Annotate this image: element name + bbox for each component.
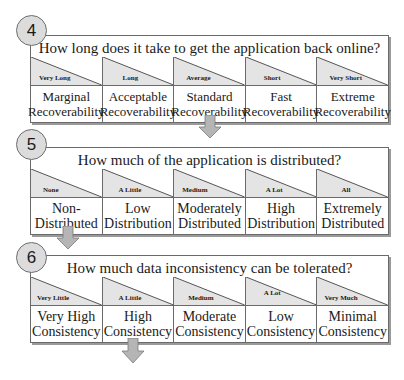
option-column[interactable]: MediumModerate Consistency	[174, 277, 246, 342]
step-number-badge: 4	[16, 15, 47, 46]
level-label: Very Long	[31, 74, 102, 82]
level-label: All	[317, 186, 388, 194]
option-scale: Very LongMarginal Recoverability LongAcc…	[31, 57, 388, 122]
level-label: A Lot	[246, 186, 317, 194]
option-label: Acceptable Recoverability	[103, 86, 174, 122]
triangle-header: A Little	[103, 277, 174, 306]
step-number-badge: 5	[16, 129, 47, 160]
option-column[interactable]: Very LittleVery High Consistency	[31, 277, 103, 342]
question-text: How much data inconsistency can be toler…	[31, 260, 388, 277]
option-label: Low Distribution	[103, 198, 174, 234]
option-label: High Consistency	[103, 306, 174, 342]
triangle-header: A Little	[103, 169, 174, 198]
level-label: Average	[174, 74, 245, 82]
option-column[interactable]: Very MuchMinimal Consistency	[317, 277, 388, 342]
option-column[interactable]: A LotHigh Distribution	[246, 169, 318, 234]
option-column[interactable]: A LittleLow Distribution	[103, 169, 175, 234]
option-scale: Very LittleVery High Consistency A Littl…	[31, 277, 388, 342]
option-column[interactable]: A LittleHigh Consistency	[103, 277, 175, 342]
option-scale: NoneNon-Distributed A LittleLow Distribu…	[31, 169, 388, 234]
option-column[interactable]: MediumModerately Distributed	[174, 169, 246, 234]
triangle-header: Very Much	[317, 277, 388, 306]
triangle-header: A Lot	[246, 169, 317, 198]
triangle-header: Very Long	[31, 57, 102, 86]
triangle-header: Very Short	[317, 57, 388, 86]
level-label: Long	[103, 74, 174, 82]
question-text: How much of the application is distribut…	[31, 152, 388, 169]
triangle-header: Average	[174, 57, 245, 86]
option-column[interactable]: AllExtremely Distributed	[317, 169, 388, 234]
triangle-header: All	[317, 169, 388, 198]
level-label: Very Little	[31, 294, 102, 302]
triangle-header: Very Little	[31, 277, 102, 306]
option-label: Fast Recoverability	[246, 86, 317, 122]
option-label: Minimal Consistency	[317, 306, 388, 342]
level-label: A Lot	[246, 289, 317, 297]
question-panel-distribution: How much of the application is distribut…	[30, 147, 389, 235]
triangle-header: Short	[246, 57, 317, 86]
level-label: None	[31, 186, 102, 194]
option-label: Marginal Recoverability	[31, 86, 102, 122]
level-label: A Little	[103, 294, 174, 302]
triangle-header: None	[31, 169, 102, 198]
option-label: High Distribution	[246, 198, 317, 234]
question-text: How long does it take to get the applica…	[31, 40, 388, 57]
down-arrow-icon	[57, 226, 79, 249]
option-column[interactable]: LongAcceptable Recoverability	[103, 57, 175, 122]
option-column[interactable]: Very LongMarginal Recoverability	[31, 57, 103, 122]
down-arrow-icon	[199, 115, 221, 138]
option-column[interactable]: A LotLow Consistency	[246, 277, 318, 342]
level-label: Medium	[174, 186, 245, 194]
level-label: Very Short	[317, 74, 388, 82]
question-panel-recoverability: How long does it take to get the applica…	[30, 35, 389, 123]
option-label: Extremely Distributed	[317, 198, 388, 234]
triangle-header: Long	[103, 57, 174, 86]
level-label: Short	[246, 74, 317, 82]
option-column[interactable]: AverageStandard Recoverability	[174, 57, 246, 122]
level-label: Medium	[174, 294, 245, 302]
option-label: Low Consistency	[246, 306, 317, 342]
down-arrow-icon	[122, 338, 144, 363]
option-label: Extreme Recoverability	[317, 86, 388, 122]
option-label: Very High Consistency	[31, 306, 102, 342]
triangle-header: Medium	[174, 277, 245, 306]
option-column[interactable]: ShortFast Recoverability	[246, 57, 318, 122]
step-number-badge: 6	[16, 242, 47, 273]
triangle-header: A Lot	[246, 277, 317, 306]
question-panel-consistency: How much data inconsistency can be toler…	[30, 255, 389, 343]
option-column[interactable]: NoneNon-Distributed	[31, 169, 103, 234]
option-label: Moderately Distributed	[174, 198, 245, 234]
level-label: Very Much	[317, 294, 388, 302]
option-column[interactable]: Very ShortExtreme Recoverability	[317, 57, 388, 122]
triangle-header: Medium	[174, 169, 245, 198]
level-label: A Little	[103, 186, 174, 194]
option-label: Moderate Consistency	[174, 306, 245, 342]
